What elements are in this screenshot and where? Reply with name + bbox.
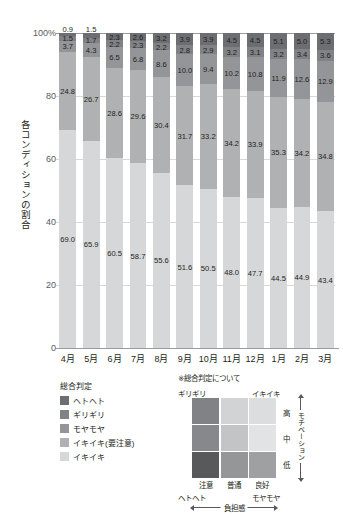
bar-segment-value: 3.1 — [250, 48, 261, 57]
bar-segment-value: 4.5 — [226, 36, 237, 45]
matrix-cell — [249, 425, 276, 451]
bar-segment-value: 3.9 — [180, 35, 191, 44]
bar-segment-value: 2.9 — [203, 45, 214, 54]
x-axis-label: 7月 — [126, 350, 149, 368]
bar-segment: 3.2 — [270, 49, 287, 59]
legend-item-label: イキイキ — [73, 451, 105, 462]
bar-segment: 51.6 — [176, 185, 193, 348]
bar-segment-value: 44.5 — [271, 273, 286, 282]
bar-segment-value: 6.8 — [133, 55, 144, 64]
x-axis-labels: 4月5月6月7月8月9月10月11月12月1月2月3月 — [56, 350, 337, 368]
bar-segment: 44.5 — [270, 208, 287, 348]
bar-segment-value: 34.8 — [318, 152, 333, 161]
bar-segment-value: 5.3 — [320, 37, 331, 46]
bar-segment-value: 3.9 — [203, 35, 214, 44]
y-tick-40: 40 — [12, 217, 56, 227]
bar-segment-value: 9.4 — [203, 65, 214, 74]
bar-stack: 5.13.211.935.344.5 — [270, 33, 287, 348]
bar-segment-value: 51.6 — [177, 262, 192, 271]
bar-segment-value: 12.9 — [318, 77, 333, 86]
bar-segment: 3.7 — [59, 41, 76, 53]
bar-segment-value: 44.9 — [295, 273, 310, 282]
legend-swatch-icon — [60, 438, 69, 447]
matrix-cell — [249, 452, 276, 478]
matrix-col-label-2: 良好 — [248, 479, 276, 490]
bar-column: 4.53.210.234.248.0 — [220, 33, 243, 348]
bar-segment-value: 4.5 — [250, 36, 261, 45]
bar-segment-value: 1.5 — [86, 25, 97, 34]
bar-segment: 12.9 — [317, 61, 334, 102]
bar-segment: 4.5 — [247, 33, 264, 47]
matrix-row-label-1: 中 — [280, 433, 292, 444]
bar-segment: 30.4 — [153, 77, 170, 173]
bar-column: 3.92.810.031.751.6 — [173, 33, 196, 348]
bar-segment-value: 60.5 — [107, 248, 122, 257]
legend-item[interactable]: イキイキ(要注意) — [60, 437, 170, 448]
matrix-cell — [249, 398, 276, 424]
matrix-horizontal-axis-label: 負担感 — [221, 502, 248, 513]
legend-item-label: イキイキ(要注意) — [73, 437, 134, 448]
bar-segment-value: 10.2 — [224, 69, 239, 78]
x-axis-line — [56, 348, 339, 349]
matrix-cell — [192, 452, 219, 478]
bar-column: 3.22.28.630.455.6 — [150, 33, 173, 348]
bar-segment-value: 48.0 — [224, 268, 239, 277]
legend-item[interactable]: イキイキ — [60, 451, 170, 462]
bar-segment-value: 50.5 — [201, 264, 216, 273]
legend-item[interactable]: ヘトヘト — [60, 395, 170, 406]
matrix-grid — [192, 398, 276, 478]
matrix-col-label-1: 普通 — [220, 479, 248, 490]
matrix-cell — [221, 452, 248, 478]
legend-item[interactable]: ギリギリ — [60, 409, 170, 420]
bar-segment: 10.8 — [247, 57, 264, 91]
bar-segment-value: 24.8 — [60, 87, 75, 96]
bar-stack: 2.62.36.829.658.7 — [130, 33, 147, 348]
matrix-row-label-0: 高 — [280, 407, 292, 418]
x-axis-label: 1月 — [267, 350, 290, 368]
bar-segment: 3.6 — [317, 50, 334, 61]
bar-segment: 2.3 — [130, 41, 147, 48]
legend-item-label: ヘトヘト — [73, 395, 105, 406]
bar-segment: 33.2 — [200, 84, 217, 189]
bar-stack: 3.92.99.433.250.5 — [200, 33, 217, 348]
matrix-corner-bottom-right: モヤモヤ — [252, 492, 280, 503]
bar-segment-value: 12.6 — [295, 75, 310, 84]
x-axis-label: 8月 — [150, 350, 173, 368]
bar-segment-value: 55.6 — [154, 256, 169, 265]
bar-column: 1.51.74.326.765.9 — [79, 33, 102, 348]
bar-segment: 5.3 — [317, 33, 334, 50]
matrix-cell — [221, 425, 248, 451]
bar-segment: 43.4 — [317, 211, 334, 348]
bar-stack: 4.53.110.833.947.7 — [247, 33, 264, 348]
legend-item[interactable]: モヤモヤ — [60, 423, 170, 434]
bar-group: 0.91.53.724.869.01.51.74.326.765.92.32.2… — [56, 33, 337, 348]
bar-column: 5.33.612.934.843.4 — [314, 33, 337, 348]
bar-segment: 10.2 — [223, 57, 240, 89]
bar-segment-value: 30.4 — [154, 120, 169, 129]
bar-segment-value: 5.0 — [297, 36, 308, 45]
bar-segment: 3.9 — [200, 33, 217, 45]
bar-segment: 4.3 — [83, 43, 100, 57]
bar-segment-value: 3.6 — [320, 51, 331, 60]
bar-segment-value: 28.6 — [107, 108, 122, 117]
matrix-row-label-2: 低 — [280, 459, 292, 470]
bar-segment-value: 3.7 — [62, 42, 73, 51]
bar-segment-value: 47.7 — [248, 268, 263, 277]
bar-stack: 1.51.74.326.765.9 — [83, 33, 100, 348]
bar-segment: 24.8 — [59, 52, 76, 130]
matrix-cell — [192, 425, 219, 451]
bar-segment: 69.0 — [59, 130, 76, 348]
bar-stack: 0.91.53.724.869.0 — [59, 33, 76, 348]
matrix-vertical-axis-label: モチベーション — [296, 410, 306, 463]
bar-segment-value: 34.2 — [295, 148, 310, 157]
bar-stack: 5.33.612.934.843.4 — [317, 33, 334, 348]
bar-segment: 55.6 — [153, 173, 170, 348]
bar-segment: 28.6 — [106, 68, 123, 158]
bar-segment: 60.5 — [106, 158, 123, 348]
bar-segment-value: 3.2 — [273, 50, 284, 59]
bar-segment: 11.9 — [270, 59, 287, 96]
y-tick-20: 20 — [12, 280, 56, 290]
y-tick-100: 100% — [12, 28, 56, 38]
bar-segment: 33.9 — [247, 91, 264, 198]
plot-area: 0.91.53.724.869.01.51.74.326.765.92.32.2… — [56, 33, 337, 348]
